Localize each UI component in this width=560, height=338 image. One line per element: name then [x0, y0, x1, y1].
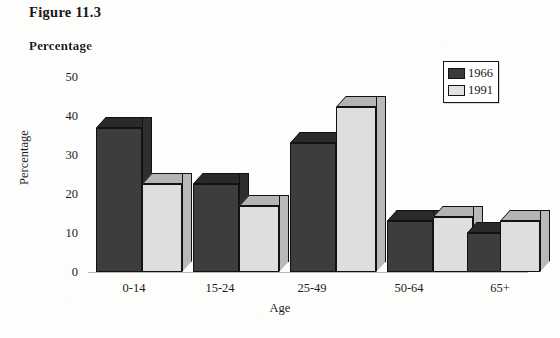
y-tick-50: 50 — [32, 71, 78, 84]
bar-1991-65-plus — [500, 221, 540, 272]
bar-front-face — [387, 221, 433, 272]
x-tick-50-64: 50-64 — [369, 281, 449, 296]
bar-1991-15-24 — [239, 206, 279, 272]
bar-1966-0-14 — [96, 128, 142, 272]
legend-label: 1991 — [468, 84, 493, 97]
axis-baseline — [88, 272, 528, 273]
bar-side-face — [376, 96, 386, 272]
x-tick-65-plus: 65+ — [460, 281, 540, 296]
y-tick-20: 20 — [32, 188, 78, 201]
legend-label: 1966 — [468, 67, 493, 80]
bar-1966-50-64 — [387, 221, 433, 272]
x-tick-15-24: 15-24 — [180, 281, 260, 296]
legend-swatch-icon — [448, 68, 465, 79]
bar-front-face — [290, 143, 336, 272]
bar-front-face — [193, 184, 239, 272]
bar-front-face — [500, 221, 540, 272]
bar-chart-plot: Percentage 0 10 20 30 40 50 — [0, 0, 560, 338]
y-axis-ticks: 0 10 20 30 40 50 — [26, 0, 78, 338]
legend-swatch-icon — [448, 85, 465, 96]
y-tick-10: 10 — [32, 227, 78, 240]
legend-item-1991: 1991 — [448, 82, 493, 99]
chart-legend: 1966 1991 — [443, 61, 499, 103]
bar-side-face — [182, 173, 192, 272]
bar-side-face — [279, 195, 289, 272]
bar-front-face — [336, 107, 376, 272]
bar-side-face — [540, 210, 550, 272]
x-tick-0-14: 0-14 — [94, 281, 174, 296]
y-tick-30: 30 — [32, 149, 78, 162]
bar-1991-0-14 — [142, 184, 182, 272]
bar-front-face — [96, 128, 142, 272]
x-axis-title: Age — [0, 301, 560, 316]
x-tick-25-49: 25-49 — [272, 281, 352, 296]
bar-1991-25-49 — [336, 107, 376, 272]
y-tick-40: 40 — [32, 110, 78, 123]
bar-front-face — [142, 184, 182, 272]
bar-front-face — [239, 206, 279, 272]
y-tick-0: 0 — [32, 266, 78, 279]
legend-item-1966: 1966 — [448, 65, 493, 82]
figure-page: Figure 11.3 Percentage Percentage 0 10 2… — [0, 0, 560, 338]
bar-1966-25-49 — [290, 143, 336, 272]
bar-1966-15-24 — [193, 184, 239, 272]
